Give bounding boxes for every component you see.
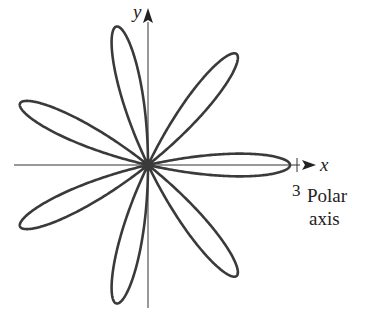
polar-rose-diagram: y x 3 Polar axis <box>0 0 366 310</box>
y-axis-label: y <box>131 1 142 22</box>
y-axis-arrow-icon <box>143 8 153 23</box>
x-axis-arrow-icon <box>302 160 316 170</box>
polar-axis-label-line1: Polar <box>307 185 348 206</box>
polar-axis-label-line2: axis <box>309 208 340 229</box>
tick-label-3: 3 <box>292 181 301 200</box>
x-axis-label: x <box>319 154 329 175</box>
